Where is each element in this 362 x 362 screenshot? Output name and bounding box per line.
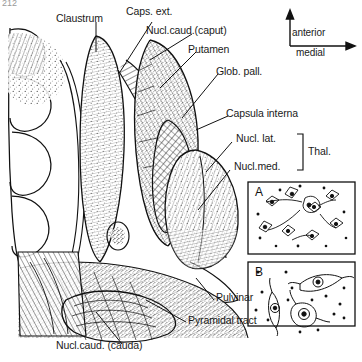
inset-a-letter: A <box>255 185 263 199</box>
anatomy-figure: 212 <box>0 0 362 362</box>
anterior-arrow-head <box>286 10 293 19</box>
leader-capsula-interna <box>196 116 228 130</box>
label-thal: Thal. <box>308 146 331 157</box>
label-pyramidal-tract: Pyramidal tract <box>188 315 257 326</box>
inset-a: A <box>248 182 355 254</box>
label-nucl-med: Nucl.med. <box>234 161 280 172</box>
label-putamen: Putamen <box>188 44 229 55</box>
label-claustrum: Claustrum <box>56 13 103 24</box>
inset-b-letter: B <box>255 265 263 279</box>
label-nucl-caud-cauda: Nucl.caud. (cauda) <box>56 340 142 351</box>
label-glob-pall: Glob. pall. <box>216 66 262 77</box>
inset-b: B <box>248 262 355 336</box>
label-medial: medial <box>296 48 325 58</box>
label-anterior: anterior <box>292 28 325 38</box>
label-pulvinar: Pulvinar <box>216 292 253 303</box>
thalamus-bracket <box>297 134 303 170</box>
cortex-texture <box>0 20 80 120</box>
label-nucl-caud-caput: Nucl.caud.(caput) <box>146 25 227 36</box>
label-nucl-lat: Nucl. lat. <box>236 133 276 144</box>
medial-arrow-head <box>346 42 355 49</box>
label-caps-ext: Caps. ext. <box>126 6 172 17</box>
label-capsula-interna: Capsula interna <box>226 108 298 119</box>
